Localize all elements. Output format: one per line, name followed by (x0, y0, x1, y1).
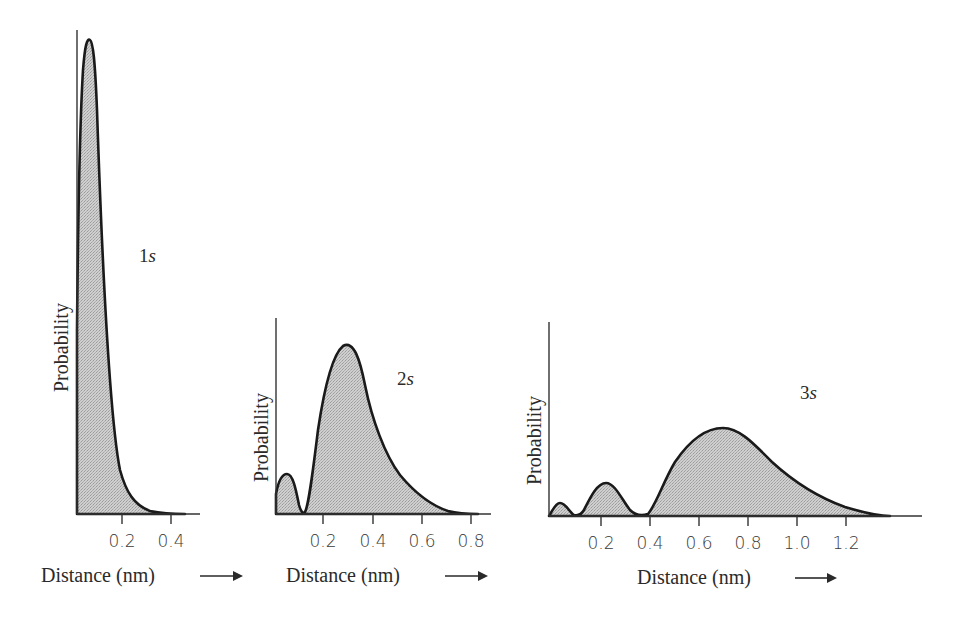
arrow-icon-1s (200, 571, 243, 581)
tick-label-2s-3: 0.8 (457, 531, 484, 551)
orbital-label-3s: 3s (800, 382, 817, 403)
y-axis-label-1s: Probability (50, 303, 73, 392)
panel-2s: 0.2 0.4 0.6 0.8 Probability Distance (nm… (250, 318, 491, 587)
x-axis-label-3s-text: Distance (nm) (637, 566, 751, 589)
arrow-icon-3s (795, 573, 837, 583)
x-axis-label-1s-text: Distance (nm) (41, 564, 155, 587)
x-axis-label-2s-text: Distance (nm) (286, 564, 400, 587)
curve-3s (549, 428, 890, 516)
y-axis-label-2s: Probability (250, 393, 273, 482)
orbital-label-1s: 1s (139, 245, 156, 266)
tick-label-2s-2: 0.6 (408, 531, 435, 551)
x-axis-label-2s: Distance (nm) (286, 564, 400, 587)
tick-label-1s-1: 0.4 (157, 531, 184, 551)
orbital-label-2s: 2s (397, 368, 414, 389)
curve-2s (276, 345, 478, 514)
tick-label-3s-2: 0.6 (685, 533, 712, 553)
x-axis-label-1s: Distance (nm) (41, 564, 155, 587)
panel-3s: 0.2 0.4 0.6 0.8 1.0 1.2 Probability Dist… (523, 322, 922, 589)
tick-label-3s-4: 1.0 (783, 533, 810, 553)
tick-label-1s-0: 0.2 (108, 531, 135, 551)
tick-label-3s-3: 0.8 (734, 533, 761, 553)
tick-label-3s-1: 0.4 (636, 533, 663, 553)
tick-label-2s-0: 0.2 (309, 531, 336, 551)
y-axis-label-3s: Probability (523, 396, 546, 485)
arrow-icon-2s (445, 571, 488, 581)
panel-1s: 0.2 0.4 Probability Distance (nm) 1s (41, 30, 243, 587)
x-axis-label-3s: Distance (nm) (637, 566, 751, 589)
tick-label-3s-0: 0.2 (587, 533, 614, 553)
tick-label-2s-1: 0.4 (359, 531, 386, 551)
tick-label-3s-5: 1.2 (832, 533, 859, 553)
curve-1s (77, 40, 185, 514)
orbital-figure: 0.2 0.4 Probability Distance (nm) 1s 0.2… (0, 0, 958, 618)
